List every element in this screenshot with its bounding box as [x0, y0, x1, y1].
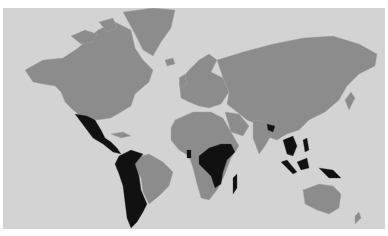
- world-map-svg: [3, 8, 385, 229]
- region-iceland: [165, 58, 175, 66]
- region-madagascar: [233, 174, 237, 194]
- region-philippines: [303, 138, 309, 152]
- world-map: [3, 8, 385, 229]
- region-caribbean: [111, 132, 131, 138]
- region-indonesia-sumatra: [281, 160, 297, 174]
- region-new-zealand: [355, 212, 361, 224]
- region-ghana: [187, 150, 191, 158]
- region-papua: [319, 168, 341, 178]
- region-japan: [345, 92, 355, 110]
- region-australia: [303, 184, 341, 214]
- region-indonesia-borneo: [297, 158, 309, 170]
- region-southeast-asia-mainland: [283, 136, 297, 156]
